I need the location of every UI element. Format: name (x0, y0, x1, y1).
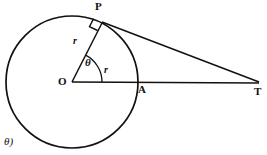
point-label-a: A (138, 84, 146, 95)
angle-label-theta: θ (85, 57, 91, 68)
point-label-t: T (254, 86, 261, 97)
corner-note-theta: θ) (4, 136, 13, 147)
point-label-o: O (58, 76, 67, 87)
geometry-figure: P O A T r r θ θ) (0, 0, 267, 155)
segment-tangent-pt (102, 22, 259, 82)
segment-radius-op (72, 23, 102, 82)
length-label-radius-op: r (73, 36, 77, 46)
segment-base-ot (72, 82, 259, 83)
geometry-canvas (0, 0, 267, 155)
point-label-p: P (95, 1, 102, 12)
length-label-radius-oa: r (104, 65, 108, 75)
